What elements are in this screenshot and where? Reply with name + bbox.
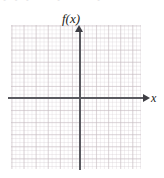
coordinate-grid-figure: • • • • • f(x) x <box>0 0 164 178</box>
y-axis-arrow-icon <box>75 25 83 32</box>
x-axis-line <box>8 97 145 99</box>
y-axis-label: f(x) <box>62 12 80 25</box>
x-axis-arrow-icon <box>143 94 150 102</box>
artifact-fragment-mid: • <box>57 0 63 5</box>
artifact-fragment-right: • <box>97 0 103 5</box>
artifact-fragment-left: • • • <box>3 0 32 5</box>
x-axis-label: x <box>151 92 156 104</box>
y-axis-line <box>79 30 81 170</box>
top-edge-text-artifacts: • • • • • <box>0 0 164 9</box>
